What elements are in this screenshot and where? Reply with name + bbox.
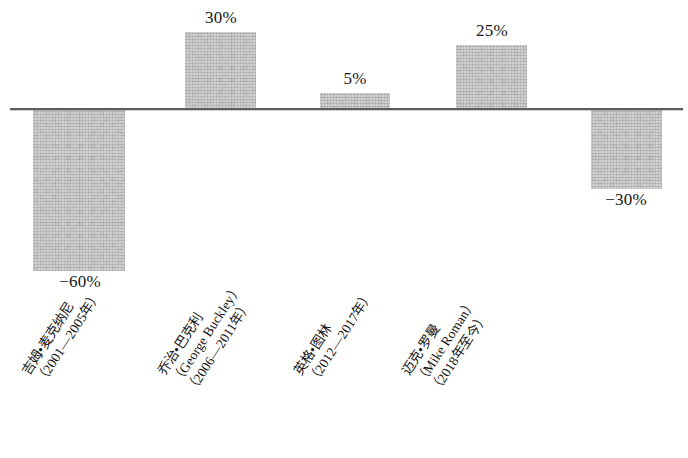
category-axis-labels: 利维奥•德西蒙 （Livio DeSimone） （1991—2000年） 吉姆…	[0, 296, 688, 458]
bar-1	[33, 110, 125, 271]
bar-value-label-5: −30%	[576, 190, 676, 210]
zero-axis-line	[10, 108, 683, 110]
bar-4	[456, 45, 527, 109]
plot-area: −60% 30% 5% 25% −30%	[0, 0, 688, 300]
bar-5	[591, 110, 662, 189]
bar-3	[320, 93, 390, 109]
bar-value-label-4: 25%	[442, 21, 542, 41]
bar-value-label-3: 5%	[305, 69, 405, 89]
bar-2	[185, 32, 256, 109]
bar-value-label-2: 30%	[171, 8, 271, 28]
bar-chart: −60% 30% 5% 25% −30% 利维奥•德西蒙 （Livio DeSi…	[0, 0, 688, 458]
